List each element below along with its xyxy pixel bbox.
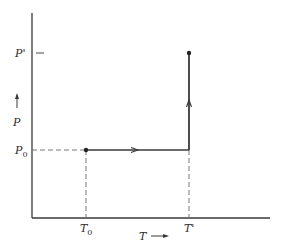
t-prime-mark: ' <box>191 222 194 235</box>
y-axis-label: P <box>13 117 20 128</box>
y-label-arrow-icon <box>15 93 19 99</box>
p-prime-mark: ' <box>22 47 25 60</box>
p0-subscript: 0 <box>22 150 27 159</box>
p0-label: P0 <box>15 145 28 159</box>
y-axis-label-text: P <box>13 116 20 129</box>
p-prime-label: P' <box>15 48 25 59</box>
t0-label: T0 <box>80 223 92 237</box>
t-prime-label: T' <box>184 223 194 234</box>
x-axis-label-text: T <box>139 230 146 243</box>
end-point <box>187 51 191 55</box>
pt-diagram <box>0 0 285 249</box>
x-label-arrow-icon <box>163 234 169 238</box>
start-point <box>84 148 88 152</box>
x-axis-label: T <box>139 231 146 242</box>
t0-subscript: 0 <box>87 228 92 237</box>
